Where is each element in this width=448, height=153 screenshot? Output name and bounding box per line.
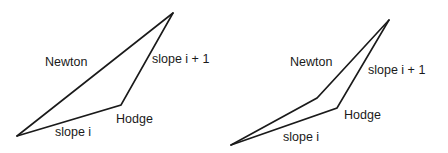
right-polygon-figure: Newton slope i + 1 Hodge slope i [231,20,425,145]
right-slope-i-label: slope i [283,130,319,144]
right-newton-label: Newton [290,55,332,69]
right-hodge-polygon [231,20,389,145]
newton-hodge-diagram: Newton slope i + 1 Hodge slope i Newton … [0,0,448,153]
left-polygon-figure: Newton slope i + 1 Hodge slope i [17,13,209,139]
left-slope-i-label: slope i [55,125,91,139]
left-newton-label: Newton [45,55,87,69]
left-slope-i-plus-1-label: slope i + 1 [152,52,209,66]
right-newton-polygon [231,20,389,145]
left-hodge-label: Hodge [116,112,153,126]
right-slope-i-plus-1-label: slope i + 1 [368,63,425,77]
right-hodge-label: Hodge [344,108,381,122]
